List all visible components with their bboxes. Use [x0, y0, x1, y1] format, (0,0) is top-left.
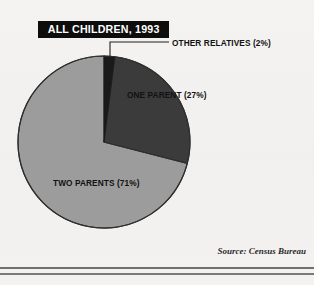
slice-label-one-parent: ONE PARENT (27%)	[127, 90, 207, 100]
chart-title-banner: ALL CHILDREN, 1993	[38, 21, 169, 38]
slice-label-two-parents: TWO PARENTS (71%)	[53, 178, 140, 188]
divider-rule-bottom	[0, 273, 314, 275]
leader-line-other-relatives	[110, 42, 169, 58]
divider-rule-top	[0, 267, 314, 269]
source-attribution: Source: Census Bureau	[217, 246, 306, 256]
page-title: ALL CHILDREN, 1993	[48, 24, 160, 35]
slice-label-other-relatives: OTHER RELATIVES (2%)	[172, 38, 271, 48]
figure-canvas: ALL CHILDREN, 1993 OTHER RELATIVES (2%) …	[0, 0, 314, 285]
